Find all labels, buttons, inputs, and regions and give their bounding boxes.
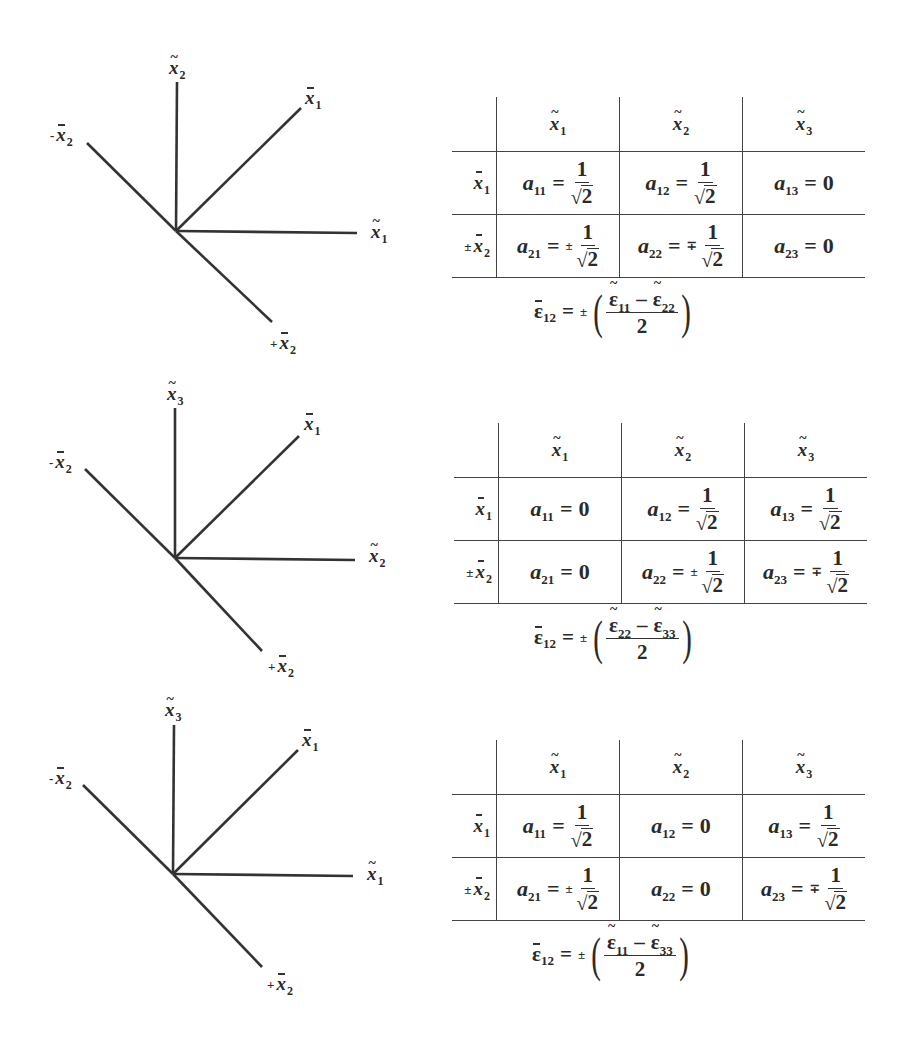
equals-sign: = (681, 876, 694, 902)
coefficient-equation: a22=0 (651, 876, 711, 902)
fraction: 1√2 (817, 802, 839, 850)
coefficient-letter: a (651, 876, 662, 901)
subscript: 2 (683, 767, 689, 781)
axis-label-horizontal: x~1 (367, 864, 384, 883)
table-row: x1a11=1√2a12=0a13=1√2 (452, 795, 865, 858)
numerator: 1 (828, 865, 843, 889)
axis-label-plus: +x2 (267, 974, 293, 993)
equals-sign: = (560, 942, 572, 967)
variable: x (55, 768, 65, 787)
subscript: 2 (484, 889, 490, 903)
table-row: ±x2a21=±1√2a22=0a23=∓1√2 (452, 858, 865, 921)
overbar-mark (278, 973, 285, 975)
numerator: 1 (575, 802, 590, 826)
variable-base: x (474, 815, 484, 836)
subscript: 33 (660, 943, 673, 958)
denominator: 2 (635, 956, 646, 980)
coefficient-letter: a (651, 813, 662, 838)
radicand: 2 (827, 828, 840, 850)
coefficient-index: 12 (662, 826, 675, 841)
equals-sign: = (791, 876, 804, 902)
tilde-mark: ~ (797, 749, 806, 763)
column-header: x~3 (743, 740, 866, 795)
sign: + (267, 977, 274, 992)
minus-xbar2-axis (83, 785, 173, 874)
minus-sign: – (634, 930, 645, 954)
coefficient-letter: a (761, 876, 772, 901)
overbar-mark (533, 943, 540, 945)
subscript: 1 (313, 740, 319, 754)
fraction: 1√2 (571, 802, 593, 850)
epsilon-tilde: ε~ (651, 930, 660, 954)
denominator: √2 (824, 889, 846, 913)
denominator: √2 (817, 826, 839, 850)
coefficient-equation: a13=1√2 (768, 802, 839, 850)
epsilon-bar: ε (532, 942, 541, 967)
subscript: 1 (484, 826, 490, 840)
table-cell: a22=0 (620, 858, 743, 921)
open-paren: ( (591, 931, 601, 979)
variable: x~ (796, 756, 806, 778)
denominator: √2 (571, 826, 593, 850)
denominator: √2 (577, 889, 599, 913)
subscript: 1 (378, 874, 384, 888)
coefficient-letter: a (517, 876, 528, 901)
epsilon-tilde: ε~ (607, 930, 616, 954)
numerator: ε~11–ε~33 (604, 929, 676, 956)
table-header-row: x~1x~2x~3 (452, 740, 865, 795)
equals-sign: = (552, 813, 565, 839)
close-paren: ) (679, 931, 689, 979)
subscript: 3 (176, 710, 182, 724)
coefficient-equation: a21=±1√2 (517, 865, 599, 913)
tilde-mark: ~ (368, 857, 377, 871)
variable: x~ (165, 700, 175, 719)
subscript: 11 (616, 943, 628, 958)
axis-label-vertical: x~3 (165, 700, 182, 719)
overbar-mark (476, 814, 483, 816)
coefficient-value: 0 (700, 876, 711, 902)
sign: - (49, 771, 53, 786)
variable: x (474, 815, 484, 837)
radicand: 2 (581, 828, 594, 850)
subscript: 3 (806, 767, 812, 781)
overbar-mark (57, 767, 64, 769)
tilde-mark: ~ (166, 693, 175, 707)
axis-label-xbar1: x1 (302, 730, 319, 749)
equals-sign: = (681, 813, 694, 839)
row-header: x1 (452, 795, 497, 858)
coefficient-letter: a (523, 813, 534, 838)
table-cell: a13=1√2 (743, 795, 866, 858)
coefficient-index: 21 (528, 889, 541, 904)
xbar1-axis (173, 750, 298, 874)
fraction: 1√2 (824, 865, 846, 913)
table-cell: a11=1√2 (497, 795, 620, 858)
overbar-mark (304, 729, 311, 731)
coefficient-index: 13 (779, 826, 792, 841)
variable: x~ (367, 864, 377, 883)
coefficient-symbol: a12 (651, 813, 675, 839)
corner-cell (452, 740, 497, 795)
equals-sign: = (547, 876, 560, 902)
variable-base: x (55, 767, 65, 788)
variable-base: x (474, 878, 484, 899)
sign: ∓ (810, 881, 821, 897)
column-header: x~2 (620, 740, 743, 795)
plus-xbar2-axis (173, 874, 262, 967)
direction-cosine-table: x~1x~2x~3x1a11=1√2a12=0a13=1√2±x2a21=±1√… (452, 740, 865, 921)
coefficient-symbol: a22 (651, 876, 675, 902)
row-header: ±x2 (452, 858, 497, 921)
fraction: ε~11–ε~332 (604, 929, 676, 980)
radicand: 2 (834, 891, 847, 913)
table-cell: a21=±1√2 (497, 858, 620, 921)
overbar-mark (476, 877, 483, 879)
coefficient-letter: a (768, 813, 779, 838)
variable-base: x (276, 973, 286, 994)
tilde-mark: ~ (607, 920, 616, 935)
subscript: 2 (66, 778, 72, 792)
coefficient-index: 22 (662, 889, 675, 904)
sign: ± (565, 881, 572, 897)
table-cell: a23=∓1√2 (743, 858, 866, 921)
coefficient-index: 23 (772, 889, 785, 904)
variable: x~ (673, 756, 683, 778)
coefficient-equation: a23=∓1√2 (761, 865, 847, 913)
